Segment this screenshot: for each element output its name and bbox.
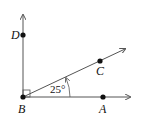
point-c xyxy=(97,58,102,63)
ray-bc xyxy=(23,49,125,97)
point-d xyxy=(20,32,25,37)
label-b: B xyxy=(18,102,26,116)
label-d: D xyxy=(10,28,20,42)
point-a xyxy=(100,94,105,99)
label-c: C xyxy=(96,64,105,78)
point-b xyxy=(20,94,25,99)
geometry-diagram: D B C A 25° xyxy=(0,0,145,120)
angle-label: 25° xyxy=(50,83,65,95)
label-a: A xyxy=(98,102,107,116)
angle-arc xyxy=(66,78,70,97)
